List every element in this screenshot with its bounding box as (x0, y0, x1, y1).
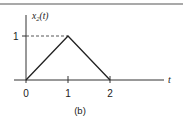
chart: x2(t) 1 t 0 1 2 (b) (0, 0, 183, 126)
x-tick-label-1: 1 (65, 88, 71, 99)
figure-caption: (b) (74, 105, 86, 116)
x-axis-label: t (168, 74, 171, 85)
x-tick-label-2: 2 (107, 88, 113, 99)
signal-line (26, 36, 110, 80)
y-axis-label: x2(t) (31, 11, 48, 22)
x-tick-label-0: 0 (23, 88, 29, 99)
y-tick-label-1: 1 (13, 31, 19, 42)
